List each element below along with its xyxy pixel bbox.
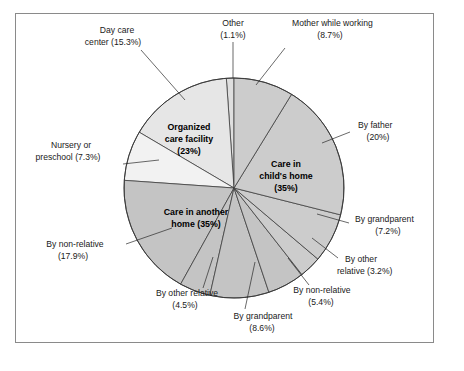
pie-chart[interactable]: Other (1.1%) Mother while working (8.7%)… xyxy=(0,0,464,371)
label-by-other-relative-bottom-line2: (4.5%) xyxy=(172,300,197,310)
label-by-other-relative-bottom-line1: By other relative xyxy=(156,288,218,298)
label-other-line1: Other xyxy=(222,18,244,28)
label-by-non-relative-left-line2: (17.9%) xyxy=(58,251,88,261)
label-by-grandparent-right-line1: By grandparent xyxy=(355,214,414,224)
group-label-child-home-line2: child's home xyxy=(259,171,313,181)
group-label-another-home-line2: home (35%) xyxy=(171,219,220,229)
group-label-another-home-line1: Care in another xyxy=(164,207,229,217)
label-mother-while-working-line1: Mother while working xyxy=(292,18,373,28)
label-nursery-or-preschool-line2: preschool (7.3%) xyxy=(36,152,101,162)
label-day-care-center-line1: Day care xyxy=(100,25,135,35)
label-by-grandparent-bottom-line2: (8.6%) xyxy=(249,323,274,333)
label-by-non-relative-left-line1: By non-relative xyxy=(46,239,104,249)
leader-mother-while-working xyxy=(256,48,285,85)
group-label-child-home-line3: (35%) xyxy=(274,183,298,193)
label-by-father-line2: (20%) xyxy=(367,132,390,142)
figure-container: Other (1.1%) Mother while working (8.7%)… xyxy=(0,0,464,371)
label-by-other-relative-right-line1: By other xyxy=(345,254,377,264)
label-by-grandparent-right-line2: (7.2%) xyxy=(375,226,400,236)
label-other-line2: (1.1%) xyxy=(220,30,245,40)
label-day-care-center-line2: center (15.3%) xyxy=(85,37,142,47)
leader-day-care-center xyxy=(141,50,185,100)
label-by-father-line1: By father xyxy=(358,120,393,130)
group-label-child-home-line1: Care in xyxy=(271,159,301,169)
group-label-organized-line1: Organized xyxy=(167,122,210,132)
label-by-non-relative-bottom-line1: By non-relative xyxy=(293,285,351,295)
label-mother-while-working-line2: (8.7%) xyxy=(317,30,342,40)
group-label-organized-line2: care facility xyxy=(165,134,214,144)
pie-slice-group xyxy=(124,78,344,298)
label-by-grandparent-bottom-line1: By grandparent xyxy=(234,311,293,321)
label-by-other-relative-right-line2: relative (3.2%) xyxy=(337,266,393,276)
label-by-non-relative-bottom-line2: (5.4%) xyxy=(308,297,333,307)
label-nursery-or-preschool-line1: Nursery or xyxy=(51,140,91,150)
group-label-organized-line3: (23%) xyxy=(177,146,201,156)
